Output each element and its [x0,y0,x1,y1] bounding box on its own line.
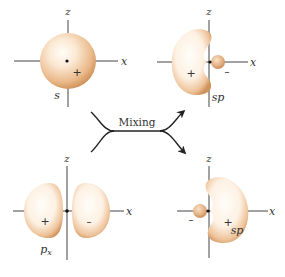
orbital-label-s: s [54,89,60,102]
z-axis-label: z [63,153,70,164]
panel-sp-orbital-2: + – z x sp [177,153,276,258]
nucleus-dot [65,59,68,62]
sp-small-lobe [193,204,207,218]
sp-large-lobe [172,29,212,95]
minus-sign: – [87,216,92,227]
output-arrow-lower [160,131,185,153]
sp-hybridization-diagram: + z x s + – z x sp Mixing + – z x px [0,0,285,277]
px-negative-lobe [72,183,110,238]
panel-s-orbital: + z x s [14,6,128,107]
panel-px-orbital: + – z x px [13,153,133,260]
orbital-label-subscript: x [47,248,52,257]
minus-sign: – [189,214,194,225]
input-curve-lower [91,131,114,152]
x-axis-label: x [121,55,128,68]
nucleus-dot [208,60,211,63]
orbital-label-p: p [40,243,47,256]
z-axis-label: z [64,6,71,17]
x-axis-label: x [126,205,133,218]
mixing-arrows: Mixing [91,111,185,153]
nucleus-dot [65,209,69,213]
minus-sign: – [225,66,230,77]
input-curve-upper [91,112,114,131]
orbital-label-sp: sp [212,91,225,104]
x-axis-label: x [250,56,257,69]
plus-sign: + [40,215,49,228]
nucleus-dot [206,209,209,212]
orbital-label-sp: sp [231,224,244,237]
plus-sign: + [72,66,81,79]
orbital-label-px: px [40,243,52,257]
mixing-label: Mixing [119,116,156,128]
panel-sp-orbital-1: + – z x sp [157,6,257,107]
output-arrow-upper [160,111,184,131]
px-positive-lobe [24,183,63,238]
z-axis-label: z [205,6,212,17]
z-axis-label: z [205,153,212,164]
sp-small-lobe [211,55,225,69]
plus-sign: + [186,67,195,80]
x-axis-label: x [269,205,276,218]
